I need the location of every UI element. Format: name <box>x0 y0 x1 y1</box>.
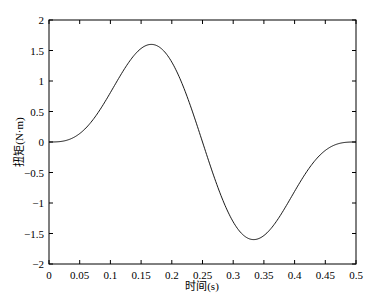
x-tick-label: 0.45 <box>316 269 336 281</box>
y-tick-label: −1 <box>32 197 44 209</box>
x-tick-label: 0.35 <box>254 269 274 281</box>
y-axis-label: 扭矩(N·m) <box>12 117 26 167</box>
y-tick-label: −0.5 <box>24 167 44 179</box>
x-tick-label: 0.4 <box>288 269 302 281</box>
y-tick-label: 1.5 <box>30 45 44 57</box>
y-axis-ticks: 21.510.50−0.5−1−1.5−2 <box>24 14 356 270</box>
torque-curve <box>49 44 356 239</box>
x-tick-label: 0 <box>46 269 52 281</box>
y-tick-label: 1 <box>39 75 45 87</box>
x-tick-label: 0.5 <box>349 269 363 281</box>
x-tick-label: 0.1 <box>104 269 118 281</box>
x-tick-label: 0.15 <box>131 269 151 281</box>
x-tick-label: 0.3 <box>226 269 240 281</box>
x-tick-label: 0.05 <box>70 269 90 281</box>
y-tick-label: 2 <box>39 14 45 26</box>
y-tick-label: −1.5 <box>24 228 44 240</box>
y-tick-label: 0 <box>39 136 45 148</box>
x-tick-label: 0.2 <box>165 269 179 281</box>
x-axis-label: 时间(s) <box>185 280 219 293</box>
chart: 21.510.50−0.5−1−1.5−2 00.050.10.150.20.2… <box>0 0 374 305</box>
y-tick-label: −2 <box>32 258 44 270</box>
y-tick-label: 0.5 <box>30 106 44 118</box>
